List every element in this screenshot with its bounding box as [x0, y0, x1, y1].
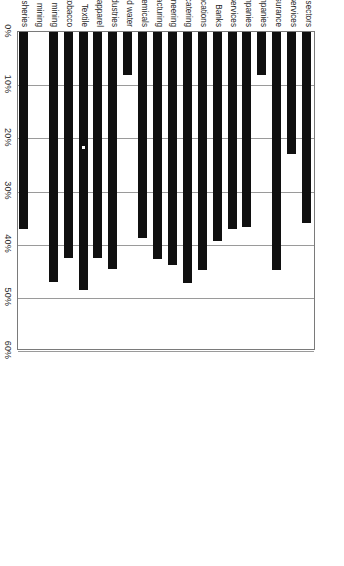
bar — [108, 32, 117, 269]
value-tick-label: 50% — [2, 288, 13, 307]
bar — [198, 32, 207, 270]
category-label: Investment companies — [258, 0, 267, 27]
value-tick-label: 0% — [2, 24, 13, 37]
category-label: Metals manufacturing — [154, 0, 163, 27]
bar — [64, 32, 73, 258]
category-label: Building and civil engineering — [169, 0, 178, 27]
category-label: Holding companies — [243, 0, 252, 27]
bars-layer — [18, 32, 314, 349]
category-label: Food, beverages, tobacco — [65, 0, 74, 27]
category-label: Leather, footwear, apparel — [94, 0, 103, 27]
category-label: Other manufacturing industries — [109, 0, 118, 27]
category-label: Chemicals — [139, 0, 148, 27]
category-label: Nonenergy-related mineral mining — [50, 0, 59, 27]
bar — [153, 32, 162, 259]
bar — [302, 32, 311, 223]
value-tick-label: 20% — [2, 128, 13, 147]
bar — [93, 32, 102, 258]
bar — [257, 32, 266, 75]
category-label: Other services — [288, 0, 297, 27]
plot-area — [17, 31, 315, 350]
value-tick-label: 40% — [2, 234, 13, 253]
category-label: Electricity and water — [124, 0, 133, 27]
bar — [168, 32, 177, 265]
category-label: Transportation and communcations — [199, 0, 208, 27]
category-label: Banks — [214, 4, 223, 27]
chart-canvas: 0%10%20%30%40%50%60% All sectorsOther se… — [0, 0, 344, 566]
bar — [79, 32, 88, 290]
bar-chart-figure: 0%10%20%30%40%50%60% All sectorsOther se… — [0, 0, 344, 566]
bar — [138, 32, 147, 238]
bar — [123, 32, 132, 75]
category-label: All sectors — [303, 0, 312, 27]
value-axis: 0%10%20%30%40%50%60% — [0, 31, 17, 350]
category-label: Retailing—hotels, restaurants, catering — [184, 0, 193, 27]
bar — [228, 32, 237, 229]
bar — [49, 32, 58, 282]
bar — [19, 32, 28, 229]
category-label: Other financial services — [229, 0, 238, 27]
category-label: Energy-related mineral mining — [35, 0, 44, 27]
value-tick-label: 30% — [2, 181, 13, 200]
scan-artifact — [82, 146, 85, 149]
category-label: Agriculture, forestry, fisheries — [20, 0, 29, 27]
bar — [242, 32, 251, 227]
category-label: Insurance — [273, 0, 282, 27]
value-tick-label: 10% — [2, 75, 13, 94]
gridline-60pct — [18, 351, 314, 352]
bar — [183, 32, 192, 283]
category-label: Textile — [80, 4, 89, 27]
value-tick-label: 60% — [2, 341, 13, 360]
bar — [287, 32, 296, 154]
category-axis: All sectorsOther servicesInsuranceInvest… — [17, 0, 315, 30]
bar — [213, 32, 222, 241]
bar — [272, 32, 281, 270]
